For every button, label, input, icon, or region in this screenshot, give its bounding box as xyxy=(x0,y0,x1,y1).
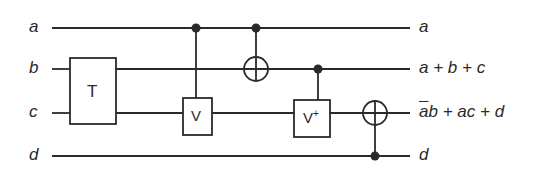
output-label-b: a + b + c xyxy=(419,59,485,76)
v-control-dot-icon xyxy=(192,24,201,33)
circuit-canvas xyxy=(0,0,559,175)
vdag-gate-label: V+ xyxy=(303,109,319,125)
output-label-d: d xyxy=(419,146,428,163)
input-label-a: a xyxy=(29,18,38,35)
input-label-d: d xyxy=(29,146,38,163)
input-label-c: c xyxy=(29,103,38,120)
t-gate-label: T xyxy=(87,83,97,100)
output-label-c: ab + ac + d xyxy=(419,103,504,120)
output-label-a: a xyxy=(419,18,428,35)
cnot2-control-dot-icon xyxy=(371,152,380,161)
vdag-control-dot-icon xyxy=(314,65,323,74)
v-gate-label: V xyxy=(191,108,201,123)
input-label-b: b xyxy=(29,59,38,76)
cnot1-control-dot-icon xyxy=(252,24,261,33)
